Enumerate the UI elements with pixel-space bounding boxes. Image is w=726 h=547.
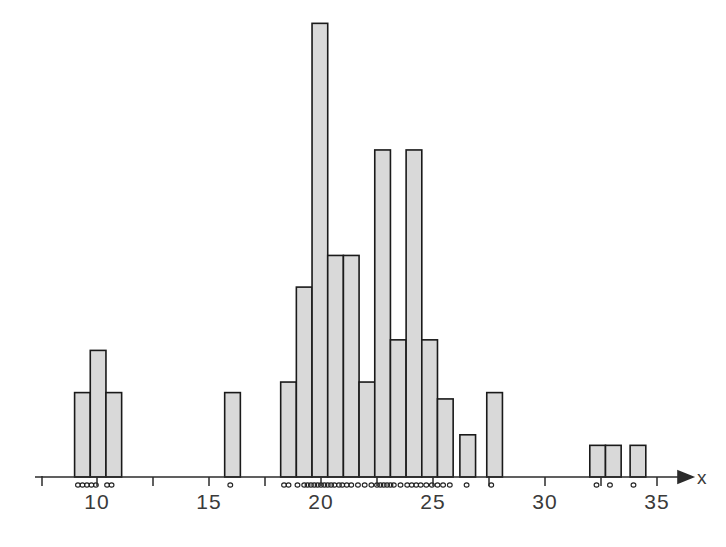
rug-tick-mark: [356, 483, 361, 487]
rug-plot-group: [76, 483, 636, 487]
x-axis-tick-label: 15: [196, 490, 221, 513]
histogram-bar: [328, 255, 344, 477]
histogram-bar: [90, 350, 106, 477]
rug-tick-mark: [391, 483, 396, 487]
histogram-bar: [225, 393, 241, 477]
histogram-bar: [375, 150, 391, 477]
x-axis-title: x: [697, 467, 707, 488]
x-axis-tick-label: 10: [84, 490, 109, 513]
x-axis-arrow-icon: [678, 471, 693, 483]
x-axis-tick-label: 25: [420, 490, 445, 513]
rug-tick-mark: [228, 483, 233, 487]
histogram-bar: [359, 382, 375, 477]
rug-tick-mark: [369, 483, 374, 487]
rug-tick-mark: [295, 483, 300, 487]
rug-tick-mark: [608, 483, 613, 487]
histogram-bar: [422, 340, 438, 477]
rug-tick-mark: [594, 483, 599, 487]
rug-tick-mark: [398, 483, 403, 487]
histogram-plot: 101520253035 x: [0, 0, 726, 547]
rug-tick-mark: [441, 483, 446, 487]
rug-tick-mark: [435, 483, 440, 487]
histogram-bar: [437, 399, 453, 477]
rug-tick-mark: [447, 483, 452, 487]
rug-tick-mark: [631, 483, 636, 487]
histogram-bar: [605, 445, 621, 477]
histogram-figure: 101520253035 x: [0, 0, 726, 547]
histogram-bar: [312, 23, 328, 477]
histogram-bar: [406, 150, 422, 477]
bars-group: [75, 23, 646, 477]
histogram-bar: [106, 393, 122, 477]
histogram-bar: [487, 393, 503, 477]
x-axis-tick-label: 30: [532, 490, 557, 513]
rug-tick-mark: [362, 483, 367, 487]
histogram-bar: [460, 435, 476, 477]
histogram-bar: [630, 445, 646, 477]
x-axis-tick-label: 20: [308, 490, 333, 513]
histogram-bar: [343, 255, 359, 477]
rug-tick-mark: [424, 483, 429, 487]
histogram-bar: [390, 340, 406, 477]
x-axis-tick-labels: 101520253035: [84, 490, 669, 513]
histogram-bar: [590, 445, 606, 477]
histogram-bar: [75, 393, 91, 477]
x-axis-tick-label: 35: [644, 490, 669, 513]
histogram-bar: [296, 287, 312, 477]
rug-tick-mark: [464, 483, 469, 487]
histogram-bar: [281, 382, 297, 477]
